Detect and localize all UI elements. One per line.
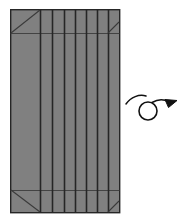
- turn-over-symbol-group: [126, 95, 177, 120]
- turn-over-loop-icon: [139, 102, 157, 120]
- origami-diagram-canvas: [0, 0, 185, 224]
- turn-over-arrowhead-icon: [165, 100, 177, 108]
- origami-diagram-root: [0, 0, 185, 224]
